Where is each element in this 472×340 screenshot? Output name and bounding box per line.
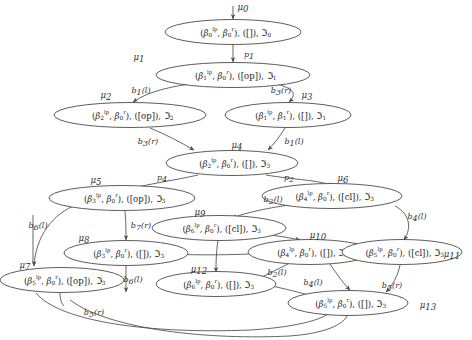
- state-label-m13: μ13: [420, 300, 436, 312]
- node-m12[interactable]: (β6lp, β0r), ([]), ℑ3: [154, 272, 279, 297]
- edge-m3-m4: [268, 128, 285, 150]
- edge-label-b4l-a: b4(l): [407, 212, 426, 223]
- state-label-m8: μ8: [79, 233, 91, 245]
- node-m7[interactable]: (β5lp, β0r), ([op]), ℑ3: [0, 268, 130, 293]
- edge-label-b3r-a: b3(r): [271, 86, 291, 97]
- node-m8[interactable]: (β3lp, β0r), ([]), ℑ3: [64, 241, 189, 266]
- edge-m10-m13: [330, 264, 350, 290]
- edge-label-b1l-a: b1(l): [131, 86, 150, 97]
- node-m13[interactable]: (β5lp, β0r), ([]), ℑ3: [286, 291, 411, 316]
- edge-m7-down: [60, 293, 64, 306]
- state-label-m2: μ2: [101, 90, 112, 102]
- node-m2[interactable]: (β2lp, β0r), ([op]), ℑ2: [54, 103, 206, 128]
- node-m5[interactable]: (β3lp, β0r), ([op]), ℑ3: [49, 186, 195, 211]
- reachability-graph-diagram: (β0lp, β0r), ([]), ℑ0 (β1lp, β0r), ([op]…: [0, 0, 472, 340]
- edge-label-b7r: b7(r): [131, 221, 151, 232]
- node-m0[interactable]: (β0lp, β0r), ([]), ℑ0: [165, 20, 301, 45]
- edge-label-b3r-b: b3(r): [138, 137, 158, 148]
- node-m4[interactable]: (β2lp, β0r), ([]), ℑ3: [166, 151, 298, 176]
- node-m9[interactable]: (β6lp, β0r), ([cl]), ℑ3: [152, 216, 286, 241]
- edge-label-b2l-b: b2(l): [267, 268, 286, 279]
- state-label-m0: μ0: [238, 2, 250, 14]
- edge-label-b1l-b: b1(l): [284, 137, 303, 148]
- node-m6[interactable]: (β4lp, β0r), ([cl]), ℑ3: [262, 184, 402, 209]
- node-m1[interactable]: (β1lp, β0r), ([op]), ℑ1: [156, 63, 310, 88]
- edge-label-p2: p2: [284, 173, 294, 184]
- state-label-m1: μ1: [134, 52, 145, 64]
- edge-label-b4l-b: b4(l): [303, 278, 322, 289]
- diagram-canvas: (β0lp, β0r), ([]), ℑ0 (β1lp, β0r), ([op]…: [0, 0, 472, 340]
- edge-m9-m12: [216, 240, 218, 272]
- edge-label-p4: p4: [157, 173, 167, 184]
- state-label-m3: μ3: [302, 90, 313, 102]
- edge-label-b5r-b: b5(r): [84, 308, 104, 319]
- node-group: (β0lp, β0r), ([]), ℑ0 (β1lp, β0r), ([op]…: [0, 20, 468, 316]
- node-m3[interactable]: (β1lp, β1r), ([]), ℑ1: [225, 103, 351, 128]
- edge-label-b5r-a: b5(r): [382, 281, 402, 292]
- edge-label-p1: p1: [244, 50, 254, 61]
- state-label-m5: μ5: [91, 175, 102, 187]
